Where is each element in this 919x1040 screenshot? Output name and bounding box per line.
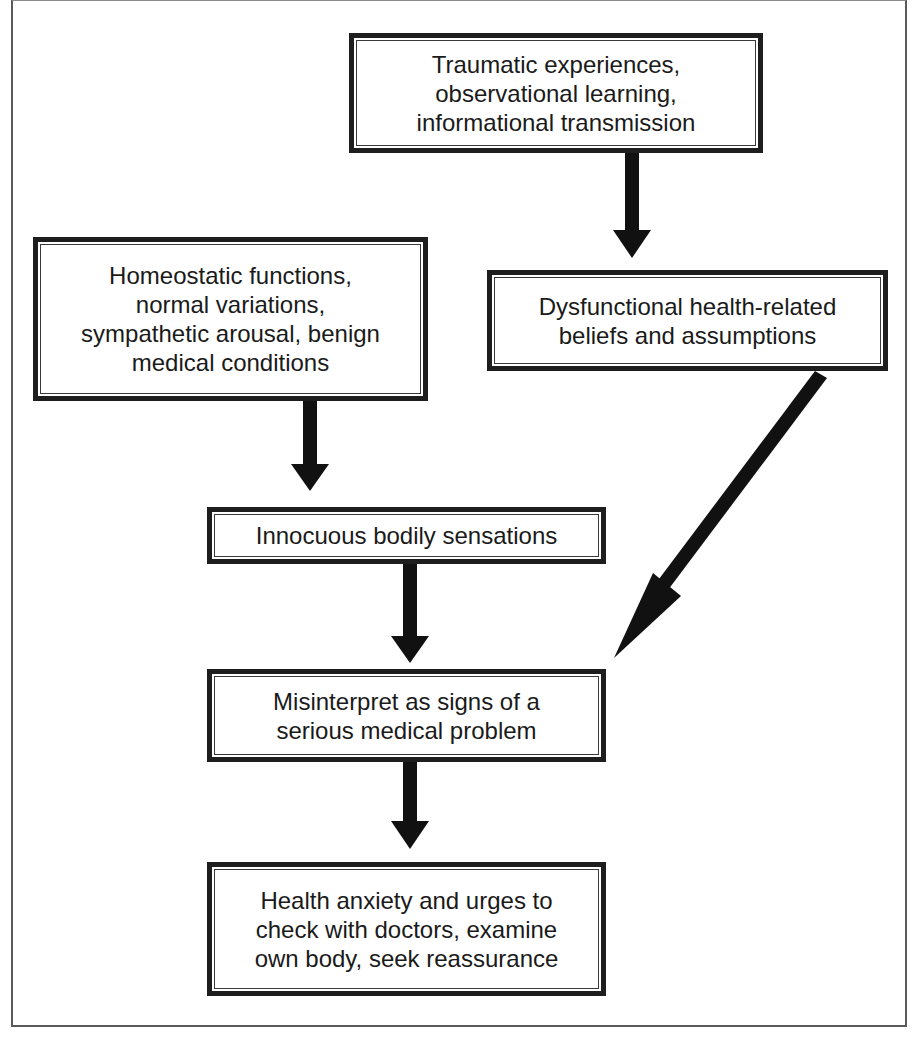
- node-health-anxiety: Health anxiety and urges to check with d…: [207, 862, 606, 996]
- node-label: Health anxiety and urges to check with d…: [255, 886, 559, 973]
- node-homeostatic-functions: Homeostatic functions, normal variations…: [33, 237, 428, 401]
- node-misinterpret: Misinterpret as signs of a serious medic…: [207, 669, 606, 762]
- node-label: Misinterpret as signs of a serious medic…: [273, 687, 540, 745]
- node-label: Traumatic experiences, observational lea…: [417, 50, 696, 137]
- node-label: Homeostatic functions, normal variations…: [81, 261, 380, 377]
- node-traumatic-experiences: Traumatic experiences, observational lea…: [349, 33, 763, 153]
- node-dysfunctional-beliefs: Dysfunctional health-related beliefs and…: [487, 270, 888, 371]
- node-innocuous-sensations: Innocuous bodily sensations: [207, 507, 606, 564]
- node-label: Dysfunctional health-related beliefs and…: [539, 292, 837, 350]
- node-label: Innocuous bodily sensations: [256, 521, 558, 550]
